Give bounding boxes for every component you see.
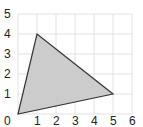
triangle-plot: 12345 0123456 [0,0,143,127]
x-tick-label: 5 [110,114,117,127]
y-tick-label: 4 [4,27,11,41]
x-tick-label: 0 [4,114,11,127]
y-tick-label: 1 [4,87,11,101]
y-axis-ticks: 12345 [4,7,11,101]
x-tick-label: 3 [72,114,79,127]
x-tick-label: 6 [129,114,136,127]
x-tick-label: 4 [91,114,98,127]
x-axis-ticks: 0123456 [4,114,136,127]
x-tick-label: 1 [34,114,41,127]
y-tick-label: 5 [4,7,11,21]
y-tick-label: 2 [4,67,11,81]
y-tick-label: 3 [4,47,11,61]
x-tick-label: 2 [53,114,60,127]
